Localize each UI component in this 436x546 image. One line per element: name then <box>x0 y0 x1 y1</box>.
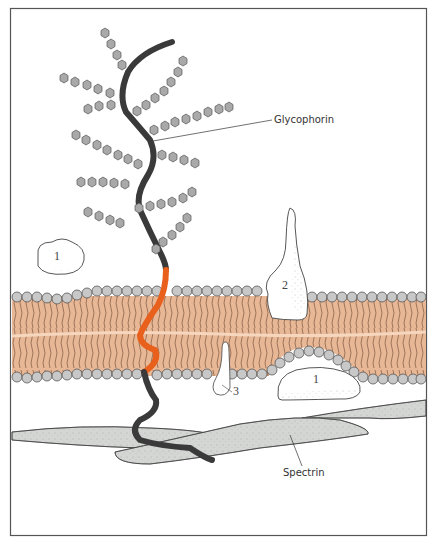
membrane-diagram: Glycophorin Spectrin 1 2 3 1 <box>0 0 436 546</box>
protein-1-inner-label: 1 <box>313 372 319 387</box>
spectrin-label: Spectrin <box>283 467 325 478</box>
glycophorin-label: Glycophorin <box>274 114 334 125</box>
protein-2-label: 2 <box>282 278 288 293</box>
protein-3-label: 3 <box>233 384 239 399</box>
lipid-bilayer <box>12 296 426 380</box>
protein-1-outer-label: 1 <box>54 249 60 264</box>
